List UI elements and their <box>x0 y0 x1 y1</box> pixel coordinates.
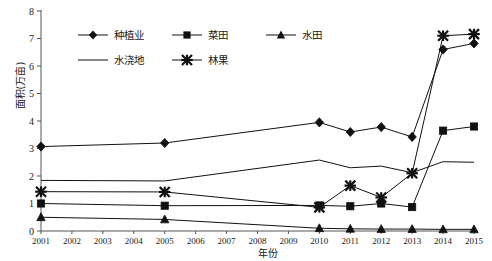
x-tick-label: 2004 <box>125 236 144 246</box>
data-point-菜田 <box>161 202 168 209</box>
series-line-种植业 <box>41 43 474 146</box>
x-tick-label: 2006 <box>187 236 206 246</box>
y-tick-label: 4 <box>29 116 34 127</box>
data-point-菜田 <box>347 203 354 210</box>
data-point-种植业 <box>37 142 45 151</box>
x-tick-label: 2003 <box>94 236 113 246</box>
y-tick-label: 6 <box>29 61 34 72</box>
x-tick-label: 2013 <box>403 236 422 246</box>
x-tick-label: 2009 <box>279 236 298 246</box>
legend-item-林果[interactable]: 林果 <box>172 54 229 66</box>
data-point-种植业 <box>315 118 323 127</box>
x-tick-label: 2010 <box>310 236 329 246</box>
data-point-菜田 <box>439 127 446 134</box>
data-point-林果 <box>468 29 480 39</box>
data-point-林果 <box>159 187 171 198</box>
legend-item-水浇地[interactable]: 水浇地 <box>78 54 145 66</box>
x-tick-label: 2011 <box>341 236 359 246</box>
y-tick-label: 8 <box>29 6 34 17</box>
y-tick-label: 3 <box>29 143 34 154</box>
chart-container: 0123456782001200220032004200520062007200… <box>0 0 492 261</box>
x-tick-label: 2015 <box>465 236 484 246</box>
data-point-水田 <box>470 225 478 233</box>
x-tick-label: 2002 <box>63 236 81 246</box>
data-point-林果 <box>437 31 449 42</box>
data-point-菜田 <box>37 200 44 207</box>
legend-label: 种植业 <box>114 29 144 41</box>
y-tick-label: 2 <box>29 171 34 182</box>
x-tick-label: 2005 <box>156 236 175 246</box>
legend-item-种植业[interactable]: 种植业 <box>78 29 144 41</box>
x-tick-label: 2012 <box>372 236 390 246</box>
line-chart-plot: 0123456782001200220032004200520062007200… <box>0 0 492 261</box>
y-tick-label: 1 <box>29 198 34 209</box>
y-tick-label: 7 <box>29 33 34 44</box>
data-point-林果 <box>35 186 47 197</box>
legend-label: 水田 <box>302 29 322 41</box>
data-point-种植业 <box>161 138 169 147</box>
x-tick-label: 2014 <box>434 236 453 246</box>
legend-item-菜田[interactable]: 菜田 <box>172 29 228 41</box>
y-tick-label: 5 <box>29 88 34 99</box>
data-point-菜田 <box>409 203 416 210</box>
legend-label: 林果 <box>208 54 229 66</box>
series-line-水田 <box>41 217 474 229</box>
x-tick-label: 2001 <box>32 236 50 246</box>
data-point-林果 <box>345 180 357 191</box>
legend-label: 水浇地 <box>114 54 145 66</box>
x-axis-title: 年份 <box>258 245 278 260</box>
data-point-种植业 <box>377 122 385 131</box>
data-point-种植业 <box>408 132 416 141</box>
data-point-种植业 <box>470 39 478 48</box>
data-point-水田 <box>37 213 45 221</box>
data-point-菜田 <box>470 123 477 130</box>
data-point-林果 <box>375 192 387 203</box>
x-tick-label: 2007 <box>218 236 237 246</box>
data-point-林果 <box>406 168 418 179</box>
legend-label: 菜田 <box>208 29 228 41</box>
data-point-林果 <box>314 202 326 213</box>
data-point-种植业 <box>346 127 354 136</box>
y-tick-label: 0 <box>29 226 34 237</box>
legend-item-水田[interactable]: 水田 <box>266 29 322 41</box>
y-axis-title: 面积(万亩) <box>12 31 27 141</box>
